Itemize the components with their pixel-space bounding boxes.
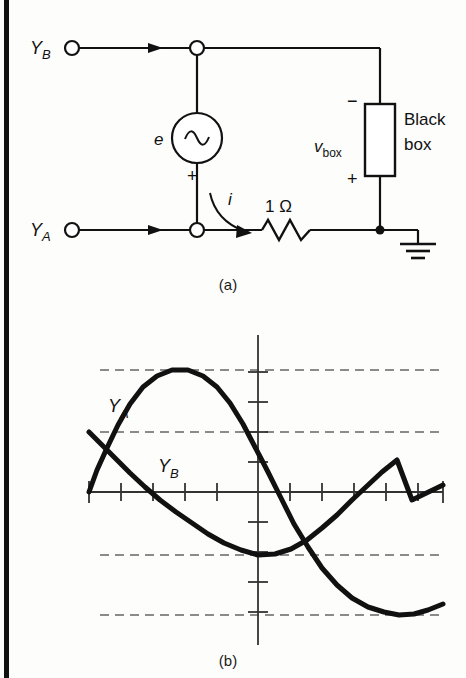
caption-part-a: (a): [188, 276, 268, 293]
node-bottom: [190, 223, 204, 237]
box-minus-sign: −: [347, 91, 358, 111]
box-voltage-label: vbox: [314, 137, 342, 160]
figure-page: YB YA e + i 1 Ω vbox − + Black box: [0, 0, 466, 678]
current-arrowhead: [236, 225, 252, 238]
terminal-yb[interactable]: [65, 41, 79, 55]
arrowhead-top-wire: [148, 43, 163, 53]
black-box-element: [365, 104, 395, 176]
curve-label-yb: YB: [158, 456, 179, 481]
circuit-diagram: YB YA e + i 1 Ω vbox − + Black box: [30, 38, 446, 258]
terminal-yb-label: YB: [30, 38, 51, 62]
black-box-label-line1: Black: [404, 110, 446, 129]
black-box-label-line2: box: [404, 135, 432, 154]
node-top: [190, 41, 204, 55]
current-label: i: [228, 190, 233, 209]
resistor-label: 1 Ω: [265, 197, 292, 216]
terminal-ya-label: YA: [30, 220, 51, 244]
waveform-plot: YA YB: [89, 335, 443, 645]
arrowhead-bottom-wire: [148, 225, 163, 235]
curve-label-ya: YA: [108, 396, 129, 421]
figure-canvas: YB YA e + i 1 Ω vbox − + Black box: [0, 0, 466, 678]
resistor-symbol: [262, 220, 310, 240]
source-label: e: [154, 130, 163, 149]
box-plus-sign: +: [347, 169, 358, 189]
current-arrow-curve: [210, 193, 244, 231]
curve-yb: [89, 432, 443, 555]
terminal-ya[interactable]: [65, 223, 79, 237]
caption-part-b: (b): [188, 652, 268, 669]
source-plus-sign: +: [187, 166, 198, 186]
